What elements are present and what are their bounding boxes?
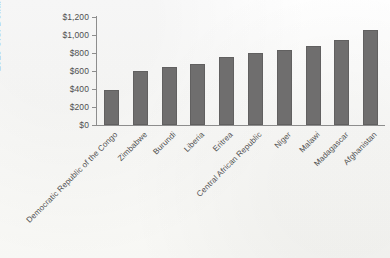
bar-chart: 2013 U.S. Dollars $1,200$1,000$800$600$4… — [0, 0, 390, 258]
bar — [277, 50, 292, 125]
x-axis-category-label: Zimbabwe — [116, 130, 149, 163]
bar — [334, 40, 349, 125]
bar — [363, 30, 378, 125]
y-axis-tick-label: $800 — [70, 48, 89, 58]
y-axis-tick-label: $400 — [70, 84, 89, 94]
bar — [248, 53, 263, 125]
y-axis-tick-label: $600 — [70, 66, 89, 76]
bar — [133, 71, 148, 125]
bar — [306, 46, 321, 125]
y-axis-tick-label: $1,200 — [62, 12, 89, 22]
x-axis-line — [96, 125, 385, 126]
x-axis-category-label: Niger — [272, 130, 292, 150]
x-axis-category-label: Malawi — [297, 130, 321, 154]
bar — [162, 67, 177, 125]
x-axis-category-label: Liberia — [182, 130, 206, 154]
y-axis-tick-label: $0 — [79, 120, 89, 130]
bar — [219, 57, 234, 125]
y-axis-tick-label: $200 — [70, 102, 89, 112]
bar — [190, 64, 205, 125]
y-axis-tick-labels: $1,200$1,000$800$600$400$200$0 — [0, 0, 89, 258]
x-axis-category-label: Eritrea — [211, 130, 235, 154]
x-axis-category-label: Burundi — [151, 130, 177, 156]
plot-area — [97, 17, 385, 125]
bar — [104, 90, 119, 125]
y-axis-tick-label: $1,000 — [62, 30, 89, 40]
